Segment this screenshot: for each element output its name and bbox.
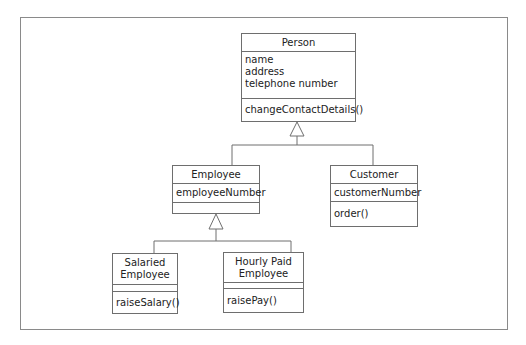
method: changeContactDetails() <box>245 104 352 116</box>
class-salaried-employee: Salaried Employee raiseSalary() <box>112 253 178 314</box>
method: raiseSalary() <box>116 297 174 309</box>
attributes-section: name address telephone number <box>242 52 355 99</box>
class-hourly-paid-employee: Hourly Paid Employee raisePay() <box>223 252 304 313</box>
attribute: telephone number <box>245 78 352 90</box>
class-employee: Employee employeeNumber <box>172 165 260 214</box>
class-name-text: Customer <box>331 169 417 181</box>
class-customer: Customer customerNumber order() <box>330 165 418 227</box>
class-name-line1: Salaried <box>113 257 177 269</box>
methods-section: raisePay() <box>224 289 303 312</box>
methods-section: changeContactDetails() <box>242 99 355 121</box>
methods-section: raiseSalary() <box>113 292 177 313</box>
class-name-line2: Employee <box>224 268 303 280</box>
class-name: Employee <box>173 166 259 184</box>
class-name-text: Person <box>242 37 355 49</box>
inheritance-triangle-icon <box>209 214 223 229</box>
inheritance-triangle-icon <box>290 122 304 136</box>
methods-section: order() <box>331 202 417 226</box>
class-name-text: Employee <box>173 169 259 181</box>
class-name: Salaried Employee <box>113 254 177 285</box>
attributes-section: employeeNumber <box>173 184 259 203</box>
class-name: Hourly Paid Employee <box>224 253 303 283</box>
attribute: name <box>245 54 352 66</box>
method: raisePay() <box>227 295 300 307</box>
class-name: Customer <box>331 166 417 184</box>
attribute: employeeNumber <box>176 187 256 199</box>
class-name-line2: Employee <box>113 269 177 281</box>
method: order() <box>334 208 414 220</box>
generalization-arrow-employee <box>154 214 291 253</box>
class-person: Person name address telephone number cha… <box>241 33 356 122</box>
attributes-section: customerNumber <box>331 184 417 202</box>
attribute: customerNumber <box>334 187 414 199</box>
generalization-arrow-person <box>232 122 373 165</box>
attributes-section <box>113 285 177 292</box>
class-name-line1: Hourly Paid <box>224 256 303 268</box>
methods-section <box>173 203 259 213</box>
attribute: address <box>245 66 352 78</box>
class-name: Person <box>242 34 355 52</box>
